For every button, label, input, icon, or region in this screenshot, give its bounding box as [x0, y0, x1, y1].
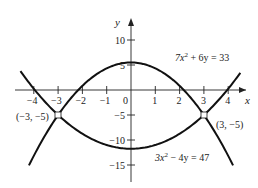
y-axis-arrow-icon — [128, 18, 134, 26]
y-tick-label: −5 — [114, 110, 125, 121]
x-tick-label: 1 — [152, 95, 157, 106]
x-tick-label: 4 — [225, 95, 230, 106]
x-axis-label: x — [244, 94, 250, 106]
x-ticks: −4−3−2−101234 — [27, 86, 230, 106]
y-tick-label: −10 — [109, 135, 125, 146]
y-tick-label: 5 — [120, 60, 125, 71]
x-axis — [15, 87, 246, 93]
x-tick-label: −1 — [100, 95, 111, 106]
x-tick-label: −3 — [51, 95, 62, 106]
curve1-equation-label: 7x2 + 6y = 33 — [175, 51, 229, 63]
x-tick-label: 2 — [177, 95, 182, 106]
x-tick-label: −2 — [75, 95, 86, 106]
y-tick-label: 10 — [115, 35, 125, 46]
x-axis-arrow-icon — [239, 87, 246, 93]
point-label-right: (3, −5) — [216, 119, 243, 131]
x-tick-label: −4 — [27, 95, 38, 106]
curve2-equation-label: 3x2 − 4y = 47 — [154, 151, 209, 163]
x-tick-label: 3 — [201, 95, 206, 106]
curve-parabola-2 — [20, 71, 240, 149]
y-axis-label: y — [114, 16, 120, 28]
y-tick-label: −15 — [109, 160, 125, 171]
intersection-marker-left — [55, 112, 61, 118]
intersection-marker-right — [201, 112, 207, 118]
x-tick-label: 0 — [123, 95, 128, 106]
y-axis — [128, 18, 134, 182]
point-label-left: (−3, −5) — [16, 111, 49, 123]
graph-canvas: −4−3−2−101234 105−5−10−15 y x 7x2 + 6y =… — [0, 0, 258, 188]
